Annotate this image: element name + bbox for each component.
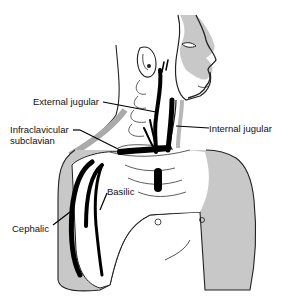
anatomy-diagram	[0, 0, 283, 297]
label-infraclavicular: Infraclavicular	[10, 124, 69, 135]
label-cephalic: Cephalic	[12, 223, 49, 234]
ear	[137, 47, 156, 77]
label-basilic: Basilic	[107, 186, 134, 197]
label-subclavian: subclavian	[10, 135, 55, 146]
label-internal-jugular: Internal jugular	[209, 123, 272, 134]
label-external-jugular: External jugular	[33, 96, 99, 107]
